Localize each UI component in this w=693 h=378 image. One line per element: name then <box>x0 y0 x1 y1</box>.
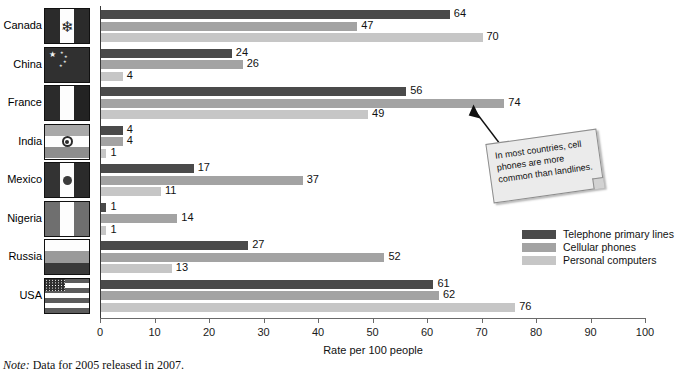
bar-france-series-0 <box>101 87 406 96</box>
bar-usa-series-0 <box>101 280 433 289</box>
country-label-mexico: Mexico <box>0 174 42 185</box>
figure-note: Note: Data for 2005 released in 2007. <box>3 358 184 373</box>
bar-value-china-series-2: 4 <box>127 71 133 80</box>
bar-china-series-2 <box>101 72 123 81</box>
india-flag <box>44 124 90 160</box>
bar-mexico-series-0 <box>101 164 194 173</box>
star-icon: ★ <box>49 51 56 59</box>
x-tick-60 <box>427 318 428 323</box>
bar-china-series-1 <box>101 60 243 69</box>
bar-value-canada-series-2: 70 <box>487 32 499 41</box>
france-flag <box>44 85 90 121</box>
x-tick-label-50: 50 <box>366 326 378 338</box>
bar-value-canada-series-1: 47 <box>361 21 373 30</box>
x-tick-label-20: 20 <box>203 326 215 338</box>
bar-france-series-2 <box>101 110 368 119</box>
mexico-flag <box>44 162 90 198</box>
bar-value-canada-series-0: 64 <box>454 9 466 18</box>
maple-leaf-icon: ❄ <box>61 19 74 34</box>
bar-value-india-series-0: 4 <box>127 125 133 134</box>
x-tick-label-90: 90 <box>584 326 596 338</box>
x-tick-label-70: 70 <box>475 326 487 338</box>
bar-value-russia-series-0: 27 <box>252 240 264 249</box>
bar-value-france-series-2: 49 <box>372 109 384 118</box>
x-tick-100 <box>645 318 646 323</box>
bar-russia-series-2 <box>101 264 172 273</box>
china-flag: ★★★★★ <box>44 47 90 83</box>
bar-value-india-series-2: 1 <box>110 148 116 157</box>
bar-value-usa-series-2: 76 <box>519 302 531 311</box>
bar-value-china-series-1: 26 <box>247 59 259 68</box>
x-tick-label-100: 100 <box>636 326 654 338</box>
bar-usa-series-2 <box>101 303 515 312</box>
ashoka-chakra-icon <box>62 136 73 147</box>
canada-flag: ❄ <box>44 8 90 44</box>
x-tick-50 <box>373 318 374 323</box>
country-label-china: China <box>0 59 42 70</box>
bar-india-series-0 <box>101 126 123 135</box>
x-tick-20 <box>209 318 210 323</box>
x-tick-70 <box>482 318 483 323</box>
bar-france-series-1 <box>101 99 504 108</box>
legend-label-1: Cellular phones <box>563 241 636 253</box>
bar-nigeria-series-0 <box>101 203 106 212</box>
country-label-india: India <box>0 136 42 147</box>
bar-mexico-series-2 <box>101 187 161 196</box>
bar-value-russia-series-1: 52 <box>388 252 400 261</box>
bar-canada-series-0 <box>101 10 450 19</box>
x-tick-10 <box>155 318 156 323</box>
country-label-russia: Russia <box>0 251 42 262</box>
bar-value-mexico-series-1: 37 <box>307 175 319 184</box>
legend-label-0: Telephone primary lines <box>563 228 674 240</box>
nigeria-flag <box>44 201 90 237</box>
note-text: Data for 2005 released in 2007. <box>33 358 184 372</box>
x-tick-0 <box>100 318 101 323</box>
star-icon: ★ <box>63 60 67 64</box>
x-tick-label-10: 10 <box>148 326 160 338</box>
bar-value-usa-series-1: 62 <box>443 290 455 299</box>
country-label-france: France <box>0 97 42 108</box>
star-icon: ★ <box>64 55 68 59</box>
legend-item-1: Cellular phones <box>522 241 674 253</box>
x-tick-label-30: 30 <box>257 326 269 338</box>
bar-value-nigeria-series-2: 1 <box>110 225 116 234</box>
bar-nigeria-series-2 <box>101 226 106 235</box>
bar-usa-series-1 <box>101 291 439 300</box>
legend-item-0: Telephone primary lines <box>522 228 674 240</box>
x-tick-label-80: 80 <box>530 326 542 338</box>
x-tick-30 <box>264 318 265 323</box>
bar-value-france-series-0: 56 <box>410 86 422 95</box>
bar-value-usa-series-0: 61 <box>437 279 449 288</box>
bar-china-series-0 <box>101 49 232 58</box>
country-label-nigeria: Nigeria <box>0 213 42 224</box>
bar-value-france-series-1: 74 <box>508 98 520 107</box>
bar-value-russia-series-2: 13 <box>176 263 188 272</box>
stars-canton-icon <box>45 279 65 291</box>
bar-russia-series-0 <box>101 241 248 250</box>
bar-canada-series-2 <box>101 33 483 42</box>
callout-fold-corner <box>592 177 604 189</box>
legend-item-2: Personal computers <box>522 254 674 266</box>
bar-value-china-series-0: 24 <box>236 48 248 57</box>
country-label-canada: Canada <box>0 20 42 31</box>
star-icon: ★ <box>59 64 63 68</box>
russia-flag <box>44 239 90 275</box>
bar-russia-series-1 <box>101 253 384 262</box>
legend-swatch-0 <box>522 230 556 239</box>
coat-of-arms-icon <box>63 176 72 185</box>
bar-nigeria-series-1 <box>101 214 177 223</box>
x-tick-90 <box>591 318 592 323</box>
bar-india-series-1 <box>101 137 123 146</box>
bar-value-nigeria-series-1: 14 <box>181 213 193 222</box>
country-label-usa: USA <box>0 290 42 301</box>
legend-swatch-1 <box>522 243 556 252</box>
legend: Telephone primary linesCellular phonesPe… <box>522 228 674 267</box>
bar-india-series-2 <box>101 149 106 158</box>
bar-canada-series-1 <box>101 22 357 31</box>
legend-swatch-2 <box>522 256 556 265</box>
note-prefix: Note: <box>3 358 30 372</box>
x-tick-label-40: 40 <box>312 326 324 338</box>
callout-text: In most countries, cell phones are more … <box>494 136 596 185</box>
bar-value-mexico-series-0: 17 <box>198 163 210 172</box>
legend-label-2: Personal computers <box>563 254 656 266</box>
